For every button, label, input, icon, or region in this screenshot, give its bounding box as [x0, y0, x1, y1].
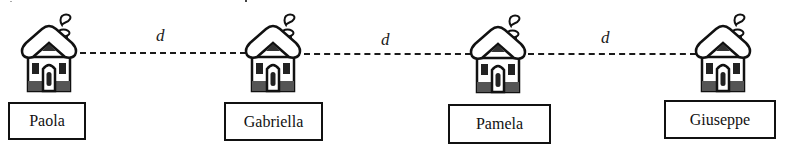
name-label: Pamela — [476, 115, 523, 133]
house-icon — [694, 13, 754, 93]
distance-label-2: d — [381, 31, 390, 48]
distance-line-1 — [80, 52, 246, 54]
house-icon — [20, 13, 80, 93]
name-label: Giuseppe — [690, 111, 750, 129]
name-box-giuseppe: Giuseppe — [664, 100, 776, 139]
name-box-paola: Paola — [8, 102, 86, 140]
name-box-gabriella: Gabriella — [224, 102, 323, 141]
house-icon — [469, 14, 529, 94]
name-label: Gabriella — [244, 113, 304, 131]
distance-label-1: d — [156, 27, 165, 44]
house-icon — [244, 13, 304, 93]
diagram-canvas: d d d — [0, 0, 785, 154]
distance-line-2 — [304, 53, 471, 55]
name-label: Paola — [29, 112, 65, 130]
distance-line-3 — [528, 53, 696, 55]
distance-label-3: d — [601, 29, 610, 46]
name-box-pamela: Pamela — [448, 104, 551, 144]
clipped-text-line — [0, 0, 785, 3]
